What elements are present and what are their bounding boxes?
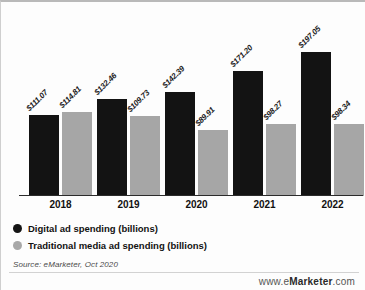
x-tick-2019: 2019 [97, 199, 160, 210]
bar-label-traditional-2018: $114.81 [58, 85, 83, 110]
bar-label-traditional-2022: $98.34 [330, 99, 353, 122]
x-tick-2020: 2020 [165, 199, 228, 210]
legend-label-digital: Digital ad spending (billions) [28, 223, 158, 234]
bar-traditional-2021[interactable]: $98.27 [266, 124, 296, 196]
x-tick-2018: 2018 [29, 199, 92, 210]
bar-group-2020: $142.39 $89.91 [165, 24, 228, 196]
legend-item-digital[interactable]: Digital ad spending (billions) [13, 220, 207, 237]
bar-group-2019: $132.46 $109.73 [97, 24, 160, 196]
bar-label-digital-2021: $171.20 [229, 43, 255, 69]
bar-label-digital-2018: $111.07 [25, 88, 50, 113]
x-axis-baseline [19, 195, 363, 196]
chart-legend: Digital ad spending (billions) Tradition… [13, 220, 207, 254]
legend-swatch-traditional-icon [13, 241, 22, 250]
bar-group-2021: $171.20 $98.27 [233, 24, 296, 196]
bar-label-digital-2019: $132.46 [93, 71, 119, 97]
legend-item-traditional[interactable]: Traditional media ad spending (billions) [13, 237, 207, 254]
bar-digital-2019[interactable]: $132.46 [97, 99, 127, 196]
bar-label-traditional-2020: $89.91 [194, 105, 217, 128]
plot-area: $111.07 $114.81 $132.46 $109.73 $142.39 … [21, 24, 361, 196]
brand-suffix: .com [333, 276, 355, 287]
bar-traditional-2018[interactable]: $114.81 [62, 112, 92, 196]
footer-divider [9, 272, 359, 273]
bar-traditional-2019[interactable]: $109.73 [130, 116, 160, 196]
brand-watermark: www.eMarketer.com [259, 276, 355, 287]
bar-label-digital-2020: $142.39 [161, 64, 187, 90]
bar-label-traditional-2021: $98.27 [262, 99, 285, 122]
source-note: Source: eMarketer, Oct 2020 [13, 260, 118, 269]
bar-traditional-2022[interactable]: $98.34 [334, 124, 364, 196]
bar-digital-2022[interactable]: $197.05 [301, 52, 331, 196]
x-tick-2022: 2022 [301, 199, 364, 210]
bar-label-digital-2022: $197.05 [297, 24, 323, 50]
bar-digital-2021[interactable]: $171.20 [233, 71, 263, 196]
x-tick-2021: 2021 [233, 199, 296, 210]
bar-digital-2018[interactable]: $111.07 [29, 115, 59, 196]
brand-name: Marketer [289, 276, 332, 287]
bar-group-2022: $197.05 $98.34 [301, 24, 364, 196]
emarketer-bar-chart: $111.07 $114.81 $132.46 $109.73 $142.39 … [0, 0, 365, 290]
bar-digital-2020[interactable]: $142.39 [165, 92, 195, 196]
legend-label-traditional: Traditional media ad spending (billions) [28, 240, 207, 251]
x-axis-tick-labels: 2018 2019 2020 2021 2022 [21, 199, 361, 215]
brand-prefix: www.e [259, 276, 289, 287]
bar-label-traditional-2019: $109.73 [126, 88, 152, 114]
bar-traditional-2020[interactable]: $89.91 [198, 130, 228, 196]
legend-swatch-digital-icon [13, 224, 22, 233]
bar-group-2018: $111.07 $114.81 [29, 24, 92, 196]
